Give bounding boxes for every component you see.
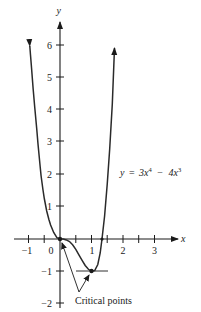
svg-text:−1: −1 (41, 266, 52, 277)
svg-text:0: 0 (49, 245, 54, 256)
x-tick-labels: −1 0 1 2 3 (22, 245, 157, 256)
svg-text:2: 2 (121, 245, 126, 256)
equation-label: y = 3x4 − 4x3 (119, 163, 181, 178)
svg-text:4: 4 (47, 104, 52, 115)
y-tick-labels: 6 5 4 3 2 1 −1 −2 (41, 40, 52, 309)
svg-text:6: 6 (47, 40, 52, 51)
x-axis-label: x (180, 233, 186, 244)
critical-point-1 (89, 269, 93, 273)
svg-text:2: 2 (47, 169, 52, 180)
svg-text:1: 1 (90, 245, 95, 256)
critical-points-label: Critical points (75, 295, 132, 306)
svg-text:1: 1 (47, 201, 52, 212)
svg-text:3: 3 (47, 136, 52, 147)
y-axis-label: y (56, 5, 62, 16)
svg-text:5: 5 (47, 72, 52, 83)
critical-point-0 (58, 237, 62, 241)
root-point (100, 237, 103, 240)
svg-text:−2: −2 (41, 298, 52, 309)
pointer-to-min (79, 275, 89, 292)
chart: y x 6 5 4 3 2 1 −1 −2 −1 0 1 2 3 y = 3x4… (0, 0, 201, 312)
svg-text:3: 3 (152, 245, 157, 256)
svg-text:−1: −1 (22, 245, 33, 256)
